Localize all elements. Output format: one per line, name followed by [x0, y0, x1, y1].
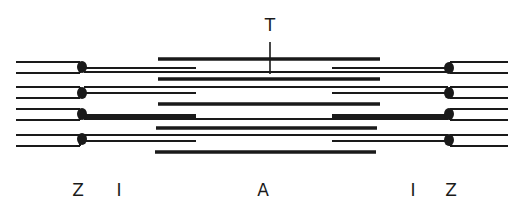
right-z-dot-4 — [444, 134, 454, 146]
filament-drawing — [0, 0, 524, 209]
right-z-dot-3 — [444, 108, 454, 120]
right-z-dot-2 — [444, 87, 454, 99]
label-z-left: Z — [72, 182, 84, 199]
left-z-dot-3 — [77, 108, 87, 120]
right-z-dot-1 — [444, 62, 454, 74]
label-a-band: A — [257, 182, 269, 199]
label-i-right: I — [410, 182, 415, 199]
label-z-right: Z — [445, 182, 457, 199]
left-z-dot-2 — [77, 87, 87, 99]
t-marker-label: T — [265, 17, 275, 34]
left-z-dot-4 — [77, 133, 87, 145]
sarcomere-diagram: T Z I A I Z — [0, 0, 524, 209]
label-i-left: I — [116, 182, 121, 199]
left-z-dot-1 — [77, 61, 87, 73]
